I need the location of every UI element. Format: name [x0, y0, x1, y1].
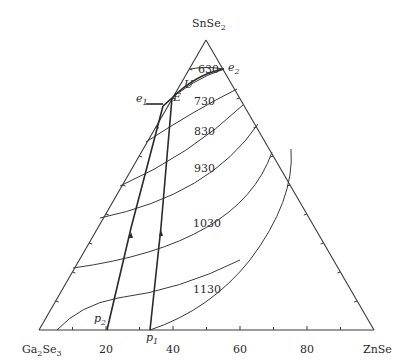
point-label-e1: e1 [136, 92, 148, 107]
tick-label-20: 20 [99, 343, 113, 356]
isotherm-930 [100, 124, 258, 218]
isotherms [57, 68, 291, 331]
right-ticks [220, 69, 357, 302]
line-p2-E [107, 106, 163, 330]
isotherm-label-1030: 1030 [193, 217, 221, 230]
isotherm-label-1130: 1130 [193, 283, 221, 296]
point-label-p2: p2 [94, 312, 106, 327]
isotherm-label-830: 830 [194, 125, 215, 138]
isotherm-label-630: 630 [198, 63, 219, 76]
point-label-e2: e2 [228, 61, 240, 76]
isotherm-830 [120, 105, 243, 186]
ternary-diagram: SnSe2 Ga2Se3 ZnSe 20 40 60 80 630 730 83… [0, 0, 407, 364]
point-label-E: E [172, 91, 181, 104]
vertex-label-snse2: SnSe2 [192, 17, 226, 32]
vertex-label-znse: ZnSe [363, 343, 392, 356]
tick-label-80: 80 [300, 343, 314, 356]
isotherm-1130-right [150, 149, 291, 330]
tick-label-40: 40 [166, 343, 180, 356]
isotherm-label-930: 930 [194, 162, 215, 175]
point-label-p1: p1 [146, 331, 158, 346]
point-label-U: U [184, 78, 194, 91]
base-ticks [73, 326, 341, 330]
isotherm-label-730: 730 [194, 95, 215, 108]
tick-label-60: 60 [233, 343, 247, 356]
isotherm-730 [146, 89, 237, 142]
isotherm-1030 [73, 152, 272, 268]
vertex-label-ga2se3: Ga2Se3 [22, 343, 62, 358]
